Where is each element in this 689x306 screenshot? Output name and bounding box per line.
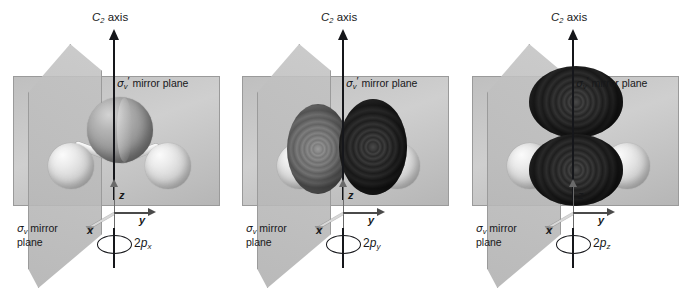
c2-axis-arrowhead bbox=[338, 29, 348, 40]
sigma-glyph: σ bbox=[117, 77, 124, 89]
sigma-v-text-line1: mirror bbox=[256, 222, 286, 234]
orbital-label-2py: 2py bbox=[363, 237, 380, 253]
c2-axis-label: C2 axis bbox=[551, 11, 587, 27]
y-axis-arrowhead bbox=[607, 208, 615, 216]
c2-axis-arrowhead bbox=[109, 29, 119, 40]
sigma-v-text-line1: mirror bbox=[27, 222, 57, 234]
orbital-label-2pz: 2pz bbox=[593, 237, 610, 253]
sigma-v-label: σv mirrorplane bbox=[476, 223, 546, 249]
c2-axis-label: C2 axis bbox=[92, 11, 128, 27]
z-axis-label: z bbox=[578, 189, 584, 201]
atom-hydrogen-left bbox=[48, 143, 94, 189]
z-axis-arrowhead bbox=[569, 179, 577, 187]
sigma-v-prime-label: σv′ mirror plane bbox=[576, 77, 647, 93]
atom-hydrogen-right bbox=[145, 143, 191, 189]
z-axis-arrowhead bbox=[110, 179, 118, 187]
y-axis-arrowhead bbox=[148, 208, 156, 216]
panel-2py: C2 axis σv′ mirror plane σv mirrorplane … bbox=[229, 0, 459, 306]
orbital-prefix: 2 bbox=[593, 236, 600, 250]
orbital-prefix: 2 bbox=[363, 236, 370, 250]
sigma-v-text-line2: plane bbox=[17, 236, 43, 248]
sigma-v-prime-text: mirror plane bbox=[358, 77, 417, 89]
c2-axis-arrowhead bbox=[568, 29, 578, 40]
sigma-v-prime-text: mirror plane bbox=[129, 77, 188, 89]
symmetry-elements-figure: C2 axis σv′ mirror plane σv mirrorplane … bbox=[0, 0, 689, 306]
z-axis-label: z bbox=[119, 189, 125, 201]
atom-oxygen-central bbox=[87, 97, 153, 163]
sigma-v-label: σv mirrorplane bbox=[246, 223, 316, 249]
y-axis-label: y bbox=[598, 214, 604, 226]
c2-axis-line bbox=[342, 40, 344, 200]
orbital-prefix: 2 bbox=[134, 236, 141, 250]
orbital-sub: y bbox=[376, 242, 380, 251]
orbital-lobe-right bbox=[339, 99, 407, 195]
c2-axis-line bbox=[113, 40, 115, 200]
c2-axis-line bbox=[572, 40, 574, 200]
rotation-axis-tail bbox=[342, 228, 344, 268]
sigma-v-prime-label: σv′ mirror plane bbox=[346, 77, 417, 93]
sigma-v-prime-label: σv′ mirror plane bbox=[117, 77, 188, 93]
sigma-glyph: σ bbox=[576, 77, 583, 89]
x-axis-label: x bbox=[546, 224, 552, 236]
c2-axis-label: C2 axis bbox=[321, 11, 357, 27]
sigma-glyph: σ bbox=[346, 77, 353, 89]
z-axis-label: z bbox=[348, 189, 354, 201]
sigma-v-label: σv mirrorplane bbox=[17, 223, 87, 249]
sigma-v-prime-text: mirror plane bbox=[588, 77, 647, 89]
c2-axis-label-word: axis bbox=[563, 11, 587, 23]
sigma-v-text-line2: plane bbox=[246, 236, 272, 248]
x-axis-label: x bbox=[87, 224, 93, 236]
z-axis-arrowhead bbox=[339, 179, 347, 187]
orbital-label-2px: 2px bbox=[134, 237, 151, 253]
sigma-glyph: σ bbox=[17, 222, 24, 234]
c2-axis-label-word: axis bbox=[104, 11, 128, 23]
sigma-v-text-line2: plane bbox=[476, 236, 502, 248]
rotation-axis-tail bbox=[113, 228, 115, 268]
c2-axis-label-word: axis bbox=[333, 11, 357, 23]
y-axis-label: y bbox=[368, 214, 374, 226]
y-axis-label: y bbox=[139, 214, 145, 226]
orbital-sub: z bbox=[606, 242, 610, 251]
sigma-glyph: σ bbox=[246, 222, 253, 234]
panel-2px: C2 axis σv′ mirror plane σv mirrorplane … bbox=[0, 0, 230, 306]
panel-2pz: C2 axis σv′ mirror plane σv mirrorplane … bbox=[459, 0, 689, 306]
rotation-axis-tail bbox=[572, 228, 574, 268]
orbital-sub: x bbox=[147, 242, 151, 251]
x-axis-label: x bbox=[316, 224, 322, 236]
orbital-lobe-bottom bbox=[529, 134, 623, 206]
sigma-v-text-line1: mirror bbox=[486, 222, 516, 234]
sigma-glyph: σ bbox=[476, 222, 483, 234]
y-axis-arrowhead bbox=[377, 208, 385, 216]
